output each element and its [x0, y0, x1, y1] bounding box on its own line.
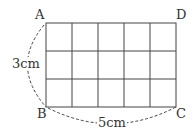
- rectangle-outline: [46, 23, 176, 107]
- width-label: 5cm: [97, 116, 127, 129]
- vertex-label-c: C: [176, 107, 186, 120]
- vertex-label-b: B: [37, 107, 47, 120]
- height-label: 3cm: [12, 57, 40, 70]
- vertex-label-d: D: [176, 8, 186, 21]
- vertex-label-a: A: [35, 8, 44, 21]
- rectangle-grid-diagram: A D B C 3cm 5cm: [0, 0, 196, 134]
- grid: [46, 23, 176, 107]
